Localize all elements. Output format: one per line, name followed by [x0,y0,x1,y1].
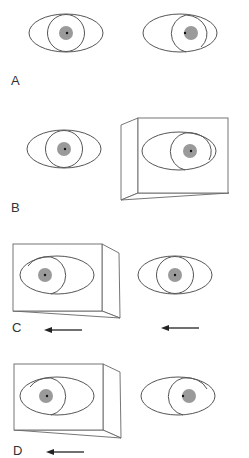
occluder-box-c [13,244,120,318]
eye-b-left [27,130,101,168]
panel-label-c: C [12,320,21,335]
eye-c-right [138,256,212,294]
panel-label-a: A [11,73,20,88]
panel-label-d: D [13,443,22,458]
eye-a-left [29,14,103,52]
cover-test-diagram [0,0,249,458]
eye-d-right [141,377,215,415]
left-arrow-icon [44,327,82,333]
panel-b [27,118,229,200]
panel-c [13,244,212,333]
panel-d [14,364,215,455]
left-arrow-icon [161,325,199,331]
left-arrow-icon [46,449,84,455]
occluder-box-d [14,364,121,438]
eye-a-right [143,14,217,52]
panel-a [29,14,217,52]
panel-label-b: B [11,200,20,215]
